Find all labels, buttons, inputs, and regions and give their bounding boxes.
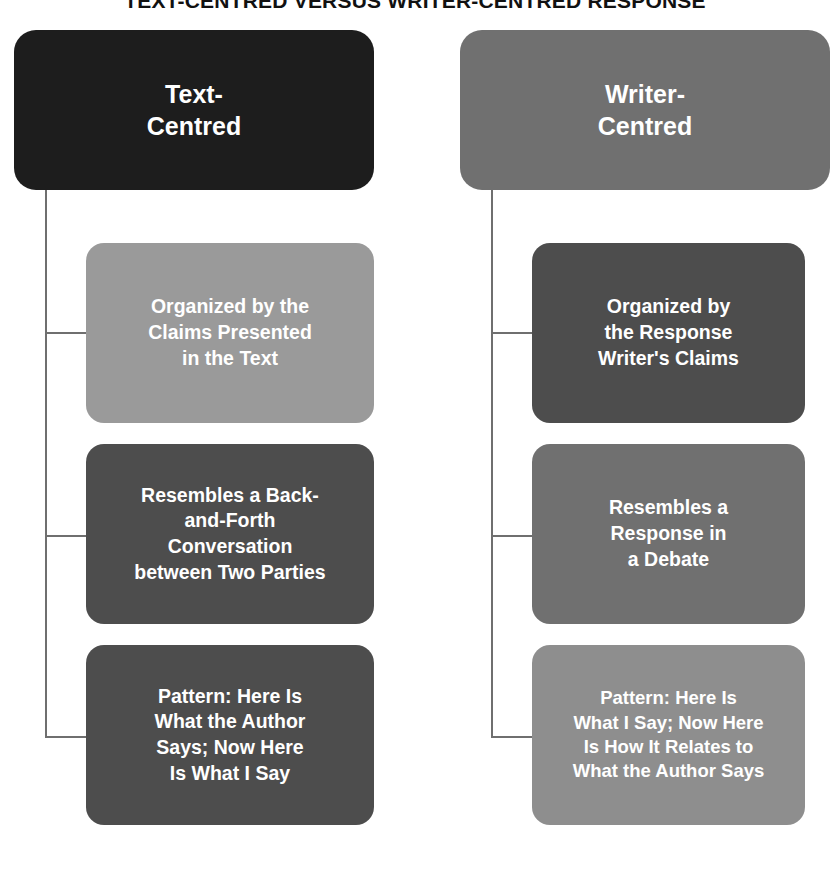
node-writer-centred-organized[interactable]: Organized bythe ResponseWriter's Claims (532, 243, 805, 423)
connector-branch-right-3 (491, 736, 533, 738)
connector-trunk-right (491, 190, 493, 738)
connector-branch-right-1 (491, 332, 533, 334)
node-text-centred-resembles[interactable]: Resembles a Back-and-ForthConversationbe… (86, 444, 374, 624)
node-writer-centred-head[interactable]: Writer-Centred (460, 30, 830, 190)
node-writer-centred-resembles[interactable]: Resembles aResponse ina Debate (532, 444, 805, 624)
connector-branch-right-2 (491, 535, 533, 537)
node-writer-centred-pattern[interactable]: Pattern: Here IsWhat I Say; Now HereIs H… (532, 645, 805, 825)
node-text-centred-pattern[interactable]: Pattern: Here IsWhat the AuthorSays; Now… (86, 645, 374, 825)
connector-trunk-left (45, 190, 47, 738)
comparison-flowchart: Text-Centred Organized by theClaims Pres… (0, 0, 830, 885)
connector-branch-left-2 (45, 535, 87, 537)
connector-branch-left-3 (45, 736, 87, 738)
node-text-centred-head[interactable]: Text-Centred (14, 30, 374, 190)
node-text-centred-organized[interactable]: Organized by theClaims Presentedin the T… (86, 243, 374, 423)
connector-branch-left-1 (45, 332, 87, 334)
